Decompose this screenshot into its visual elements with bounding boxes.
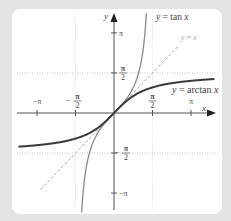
x-tick-label-pi: π — [189, 97, 193, 106]
minus-sign: − — [66, 96, 71, 105]
y-axis-arrow-icon — [111, 13, 118, 22]
y-tick-label-pi: π — [119, 29, 123, 38]
fraction-denominator: 2 — [150, 101, 154, 110]
minus-sign: − — [115, 148, 120, 157]
y-tick-label-neg-pi: −π — [119, 189, 128, 198]
fraction-denominator: 2 — [76, 101, 80, 110]
svg-text:π: π — [121, 64, 125, 73]
svg-text:π: π — [150, 92, 154, 101]
svg-text:π: π — [75, 92, 79, 101]
x-tick-label-neg-pi: −π — [33, 97, 42, 106]
arctan-curve-label: y = arctan x — [171, 84, 219, 95]
tan-curve-label: y = tan x — [155, 12, 189, 22]
x-axis-arrow-icon — [207, 110, 216, 117]
identity-line-label: y = x — [180, 33, 197, 42]
x-axis-label: x — [201, 103, 206, 113]
y-axis-label: y — [103, 11, 108, 21]
svg-text:π: π — [124, 144, 128, 153]
fraction-denominator: 2 — [121, 73, 125, 82]
fraction-denominator: 2 — [124, 153, 128, 162]
chart-canvas: −ππ2−ππ2ππππ2ππ2−π−π x y y = tan x y = x… — [0, 0, 231, 221]
reference-grid — [17, 14, 218, 210]
